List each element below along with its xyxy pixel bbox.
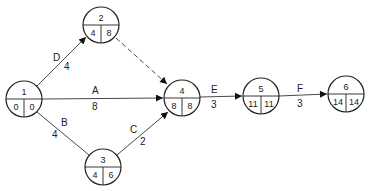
node-5: 5 11 11 [243, 78, 279, 114]
edge-d-activity: D [53, 52, 60, 63]
edge-c: C 2 [117, 112, 168, 155]
node-4-early: 8 [171, 101, 176, 111]
edge-d: D 4 [37, 37, 86, 86]
edge-f-duration: 3 [297, 98, 303, 109]
network-diagram: D 4 A 8 B 4 C 2 E 3 F 3 1 0 0 [0, 0, 370, 191]
node-2-label: 2 [98, 13, 103, 23]
node-1-early: 0 [13, 102, 18, 112]
node-6: 6 14 14 [328, 76, 364, 112]
edge-e: E 3 [200, 84, 242, 110]
node-4-late: 8 [187, 101, 192, 111]
node-3: 3 4 6 [85, 149, 121, 185]
node-4: 4 8 8 [164, 80, 200, 116]
edge-e-activity: E [211, 84, 218, 95]
node-2: 2 4 8 [83, 7, 119, 43]
node-2-early: 4 [90, 28, 95, 38]
edge-a-activity: A [92, 85, 99, 96]
edge-d-duration: 4 [64, 61, 70, 72]
node-6-label: 6 [343, 82, 348, 92]
node-5-early: 11 [248, 99, 257, 109]
edge-f-activity: F [297, 83, 303, 94]
node-2-late: 8 [106, 28, 111, 38]
edge-a-duration: 8 [92, 101, 98, 112]
edge-c-duration: 2 [140, 136, 146, 147]
edge-b-duration: 4 [52, 129, 58, 140]
edge-b: B 4 [37, 112, 89, 155]
node-1-label: 1 [21, 87, 26, 97]
edge-c-activity: C [130, 124, 137, 135]
node-4-label: 4 [179, 86, 184, 96]
node-5-late: 11 [264, 99, 273, 109]
edge-b-activity: B [61, 117, 68, 128]
node-6-late: 14 [349, 97, 359, 107]
edge-e-duration: 3 [211, 99, 217, 110]
edge-dummy [116, 38, 167, 84]
node-6-early: 14 [333, 97, 343, 107]
node-3-early: 4 [92, 170, 97, 180]
node-3-label: 3 [100, 155, 105, 165]
node-3-late: 6 [108, 170, 113, 180]
edge-a: A 8 [42, 85, 163, 112]
node-1: 1 0 0 [6, 81, 42, 117]
node-1-late: 0 [29, 102, 34, 112]
edge-f: F 3 [279, 83, 327, 109]
node-5-label: 5 [258, 84, 263, 94]
